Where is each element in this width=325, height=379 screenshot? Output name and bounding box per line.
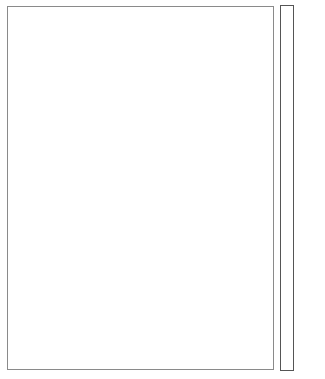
map-plot-frame xyxy=(7,6,274,370)
colorbar-legend xyxy=(280,5,294,371)
raster-map xyxy=(8,7,275,371)
